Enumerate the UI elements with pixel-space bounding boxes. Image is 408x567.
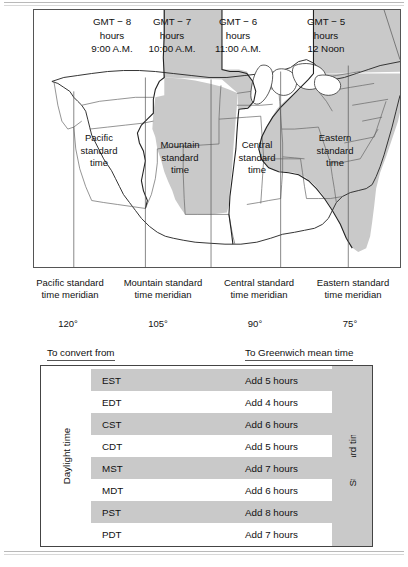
zone-header-local-time: 10:00 A.M. bbox=[138, 42, 206, 56]
cell-abbreviation: CST bbox=[91, 419, 201, 430]
daylight-time-side-band: Daylight time bbox=[41, 366, 91, 546]
page-rule-top-primary bbox=[4, 2, 404, 3]
table-row[interactable]: EDT Add 4 hours bbox=[91, 391, 372, 413]
zone-header-offset: GMT − 5 bbox=[284, 15, 368, 29]
table-row[interactable]: CST Add 6 hours bbox=[91, 413, 372, 435]
cell-conversion: Add 5 hours bbox=[201, 441, 298, 452]
meridian-caption-eastern: Eastern standard time meridian bbox=[302, 277, 404, 301]
zone-header-mountain: GMT − 7 hours 10:00 A.M. bbox=[138, 15, 206, 56]
meridian-line2: time meridian bbox=[20, 289, 120, 301]
page-rule-top-secondary bbox=[4, 5, 404, 6]
meridian-caption-mountain: Mountain standard time meridian bbox=[110, 277, 216, 301]
page-rule-bottom-primary bbox=[4, 551, 404, 552]
zone-header-eastern: GMT − 5 hours 12 Noon bbox=[284, 15, 368, 56]
cell-abbreviation: PST bbox=[91, 507, 201, 518]
cell-conversion: Add 7 hours bbox=[201, 463, 298, 474]
zone-header-unit: hours bbox=[284, 29, 368, 43]
cell-abbreviation: MDT bbox=[91, 485, 201, 496]
table-caption-greenwich-mean-time: To Greenwich mean time bbox=[245, 347, 353, 361]
time-conversion-table: Standard time Daylight time EST Add 5 ho… bbox=[40, 365, 373, 547]
zone-header-unit: hours bbox=[79, 29, 145, 43]
zone-header-central: GMT − 6 hours 11:00 A.M. bbox=[203, 15, 273, 56]
meridian-degrees-mountain: 105° bbox=[128, 318, 188, 329]
meridian-line2: time meridian bbox=[208, 289, 310, 301]
table-row[interactable]: MDT Add 6 hours bbox=[91, 479, 372, 501]
meridian-degrees-central: 90° bbox=[225, 318, 285, 329]
zone-header-local-time: 11:00 A.M. bbox=[203, 42, 273, 56]
cell-conversion: Add 8 hours bbox=[201, 507, 298, 518]
cell-abbreviation: EST bbox=[91, 375, 201, 386]
meridian-degrees-eastern: 75° bbox=[320, 318, 380, 329]
cell-conversion: Add 4 hours bbox=[201, 397, 298, 408]
meridian-line1: Mountain standard bbox=[110, 277, 216, 289]
zone-header-pacific: GMT − 8 hours 9:00 A.M. bbox=[79, 15, 145, 56]
zone-header-offset: GMT − 7 bbox=[138, 15, 206, 29]
table-caption-convert-from: To convert from bbox=[47, 347, 115, 361]
zone-header-offset: GMT − 8 bbox=[79, 15, 145, 29]
meridian-line2: time meridian bbox=[110, 289, 216, 301]
meridian-line1: Central standard bbox=[208, 277, 310, 289]
zone-header-unit: hours bbox=[203, 29, 273, 43]
cell-abbreviation: EDT bbox=[91, 397, 201, 408]
table-row[interactable]: EST Add 5 hours bbox=[91, 369, 372, 391]
meridian-caption-central: Central standard time meridian bbox=[208, 277, 310, 301]
meridian-caption-pacific: Pacific standard time meridian bbox=[20, 277, 120, 301]
meridian-degrees-pacific: 120° bbox=[38, 318, 98, 329]
zone-header-local-time: 9:00 A.M. bbox=[79, 42, 145, 56]
table-row[interactable]: PDT Add 7 hours bbox=[91, 523, 372, 545]
time-zone-map: GMT − 8 hours 9:00 A.M. GMT − 7 hours 10… bbox=[33, 9, 401, 268]
cell-conversion: Add 6 hours bbox=[201, 419, 298, 430]
daylight-time-side-label: Daylight time bbox=[61, 428, 72, 485]
meridian-line2: time meridian bbox=[302, 289, 404, 301]
table-row[interactable]: PST Add 8 hours bbox=[91, 501, 372, 523]
zone-header-unit: hours bbox=[138, 29, 206, 43]
cell-conversion: Add 7 hours bbox=[201, 529, 298, 540]
meridian-line1: Pacific standard bbox=[20, 277, 120, 289]
conversion-rows: EST Add 5 hours EDT Add 4 hours CST Add … bbox=[91, 369, 372, 545]
cell-abbreviation: MST bbox=[91, 463, 201, 474]
table-row[interactable]: MST Add 7 hours bbox=[91, 457, 372, 479]
table-row[interactable]: CDT Add 5 hours bbox=[91, 435, 372, 457]
cell-abbreviation: PDT bbox=[91, 529, 201, 540]
page-rule-bottom-secondary bbox=[4, 554, 404, 555]
cell-conversion: Add 6 hours bbox=[201, 485, 298, 496]
cell-conversion: Add 5 hours bbox=[201, 375, 298, 386]
zone-header-local-time: 12 Noon bbox=[284, 42, 368, 56]
meridian-line1: Eastern standard bbox=[302, 277, 404, 289]
zone-header-offset: GMT − 6 bbox=[203, 15, 273, 29]
cell-abbreviation: CDT bbox=[91, 441, 201, 452]
